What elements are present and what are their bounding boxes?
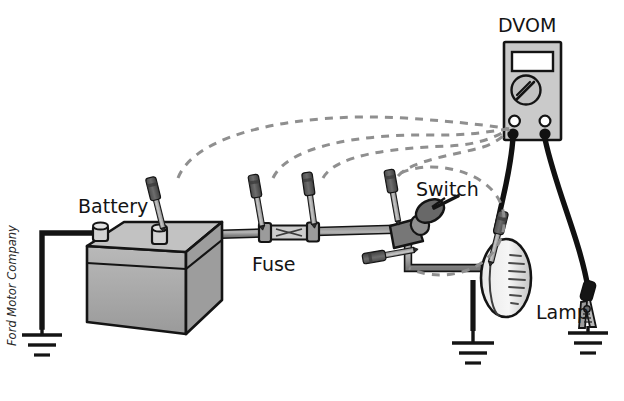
test-probe-fuse-output (302, 172, 320, 229)
label-fuse: Fuse (252, 253, 296, 275)
ground-symbol-clip (568, 326, 608, 353)
lamp (481, 239, 531, 317)
battery (87, 222, 222, 334)
label-switch: Switch (416, 178, 479, 200)
dvom-dial[interactable] (512, 76, 541, 105)
dvom-jack-left[interactable] (509, 116, 520, 127)
lead-wire-right (545, 139, 588, 288)
wiring-diagram-canvas: DVOM Battery Fuse Switch Lamp Ford Motor… (0, 0, 624, 401)
dashed-path-1 (178, 117, 509, 178)
label-dvom: DVOM (498, 14, 556, 36)
dashed-test-paths (178, 117, 509, 178)
dvom-jack-right[interactable] (540, 116, 551, 127)
ground-symbol-lamp (452, 330, 494, 363)
dvom-display (512, 52, 553, 71)
label-lamp: Lamp (536, 301, 589, 323)
dvom-meter (504, 42, 561, 140)
fuse (259, 223, 319, 243)
test-probe-switch-input (384, 169, 404, 226)
credit-ford-motor-company: Ford Motor Company (5, 225, 19, 346)
battery-terminal-negative (93, 222, 108, 241)
label-battery: Battery (78, 195, 148, 217)
